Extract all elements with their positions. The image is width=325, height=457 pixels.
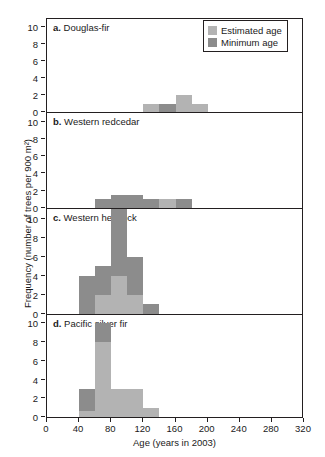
panel-western-hemlock: c. Western hemlock0246810	[46, 208, 303, 314]
y-axis-tick-label: 6	[16, 151, 38, 162]
plot-area-b: b. Western redcedar0246810	[47, 113, 302, 208]
y-axis-tick	[41, 218, 45, 219]
bar	[143, 199, 159, 208]
bar-segment-estimated-age	[143, 408, 159, 417]
bar	[95, 266, 111, 314]
bar-segment-estimated-age	[79, 411, 95, 417]
y-axis-tick	[41, 379, 45, 380]
bar-segment-estimated-age	[111, 389, 127, 417]
y-axis-tick-label: 2	[16, 186, 38, 197]
x-axis-tick	[271, 418, 272, 422]
y-axis-tick-label: 4	[16, 73, 38, 84]
legend: Estimated age Minimum age	[203, 20, 288, 52]
panel-title: a. Douglas-fir	[53, 22, 110, 33]
y-axis-tick	[41, 94, 45, 95]
panel-letter: a.	[53, 22, 61, 33]
y-axis-tick-label: 8	[16, 233, 38, 244]
x-axis-tick	[78, 418, 79, 422]
y-axis-tick	[41, 360, 45, 361]
bar-segment-minimum-age	[79, 389, 95, 411]
x-axis-tick-label: 200	[195, 423, 219, 434]
bar	[192, 104, 208, 112]
bar-segment-estimated-age	[192, 104, 208, 112]
bar	[159, 199, 175, 208]
bar	[143, 104, 159, 112]
plot-area-c: c. Western hemlock0246810	[47, 209, 302, 314]
y-axis-tick-label: 8	[16, 39, 38, 50]
x-axis-tick	[175, 418, 176, 422]
x-axis-tick	[46, 418, 47, 422]
bar	[127, 389, 143, 417]
y-axis-tick-label: 6	[16, 56, 38, 67]
y-axis-tick-label: 2	[16, 290, 38, 301]
y-axis-tick	[41, 77, 45, 78]
bar	[176, 199, 192, 208]
y-axis-tick-label: 4	[16, 168, 38, 179]
x-axis-tick	[142, 418, 143, 422]
y-axis-tick-label: 8	[16, 134, 38, 145]
y-axis-tick-label: 10	[16, 318, 38, 329]
y-axis-tick	[41, 397, 45, 398]
legend-item-estimated-age: Estimated age	[208, 24, 282, 36]
y-axis-tick	[41, 313, 45, 314]
x-axis-tick-label: 280	[259, 423, 283, 434]
x-axis-tick-label: 320	[291, 423, 315, 434]
y-axis-tick-label: 2	[16, 90, 38, 101]
y-axis-tick-label: 2	[16, 393, 38, 404]
bar-segment-estimated-age	[111, 276, 127, 314]
bar	[111, 195, 127, 208]
y-axis-tick	[41, 294, 45, 295]
bar	[159, 104, 175, 112]
bar-segment-estimated-age	[127, 389, 143, 417]
bar	[143, 408, 159, 417]
y-axis-tick	[41, 341, 45, 342]
y-axis-tick-label: 6	[16, 252, 38, 263]
panel-title: b. Western redcedar	[53, 116, 139, 127]
bar-segment-minimum-age	[95, 199, 111, 208]
bar-segment-estimated-age	[176, 95, 192, 112]
y-axis-tick	[41, 60, 45, 61]
bar	[143, 304, 159, 314]
y-axis-tick-label: 10	[16, 214, 38, 225]
x-axis-tick	[303, 418, 304, 422]
x-axis-tick-label: 120	[130, 423, 154, 434]
panel-letter: c.	[53, 212, 61, 223]
panel-species-name: Western redcedar	[61, 116, 139, 127]
x-axis-tick	[110, 418, 111, 422]
bar	[176, 95, 192, 112]
panel-western-redcedar: b. Western redcedar0246810	[46, 112, 303, 208]
y-axis-tick-label: 6	[16, 356, 38, 367]
y-axis-tick	[41, 190, 45, 191]
y-axis-tick-label: 4	[16, 375, 38, 386]
y-axis-tick	[41, 111, 45, 112]
bar-segment-minimum-age	[127, 195, 143, 208]
panel-pacific-silver-fir: d. Pacific silver fir0246810	[46, 314, 303, 418]
legend-item-minimum-age: Minimum age	[208, 36, 282, 48]
x-axis-title: Age (years in 2003)	[46, 437, 303, 448]
y-axis-tick-label: 0	[16, 203, 38, 214]
y-axis-tick	[41, 416, 45, 417]
bar	[95, 323, 111, 417]
bar	[111, 209, 127, 314]
y-axis-tick	[41, 172, 45, 173]
y-axis-tick	[41, 43, 45, 44]
bar	[127, 257, 143, 314]
y-axis-tick	[41, 256, 45, 257]
x-axis-tick	[207, 418, 208, 422]
bar-segment-minimum-age	[176, 199, 192, 208]
y-axis-tick	[41, 155, 45, 156]
y-axis-tick	[41, 322, 45, 323]
y-axis-tick-label: 0	[16, 412, 38, 423]
x-axis-tick-label: 80	[98, 423, 122, 434]
bar-segment-estimated-age	[127, 295, 143, 314]
bar	[95, 199, 111, 208]
y-axis-tick-label: 8	[16, 337, 38, 348]
x-axis-tick-label: 240	[227, 423, 251, 434]
bar-segment-estimated-age	[95, 295, 111, 314]
bar-segment-estimated-age	[143, 104, 159, 112]
y-axis-tick-label: 10	[16, 22, 38, 33]
y-axis-tick	[41, 275, 45, 276]
bar-segment-minimum-age	[95, 323, 111, 342]
bar-segment-estimated-age	[159, 199, 175, 208]
x-axis-tick-label: 0	[34, 423, 58, 434]
